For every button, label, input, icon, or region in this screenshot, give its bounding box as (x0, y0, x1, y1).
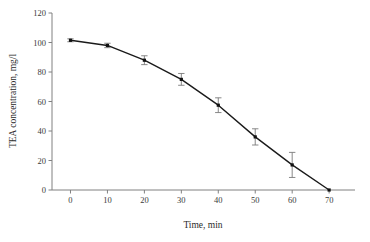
x-tick-label: 50 (251, 195, 260, 205)
y-tick-label: 120 (33, 8, 46, 18)
y-axis-title: TEA concentration, mg/l (8, 54, 18, 149)
x-tick-label: 40 (214, 195, 223, 205)
data-point-marker (69, 39, 72, 42)
y-tick-label: 80 (38, 67, 47, 77)
x-tick-label: 10 (103, 195, 112, 205)
x-tick-label: 60 (288, 195, 297, 205)
chart-background (0, 0, 370, 242)
x-tick-label: 30 (177, 195, 186, 205)
y-tick-label: 100 (33, 38, 46, 48)
x-tick-label: 0 (68, 195, 72, 205)
chart-figure: 020406080100120 010203040506070 Time, mi… (0, 0, 370, 242)
x-tick-label: 70 (325, 195, 334, 205)
x-tick-label: 20 (140, 195, 149, 205)
y-tick-label: 60 (38, 97, 47, 107)
data-point-marker (328, 188, 331, 191)
data-point-marker (254, 135, 257, 138)
data-point-marker (143, 59, 146, 62)
data-point-marker (106, 44, 109, 47)
line-chart: 020406080100120 010203040506070 Time, mi… (0, 0, 370, 242)
y-tick-label: 40 (38, 126, 47, 136)
x-axis-title: Time, min (183, 220, 222, 230)
y-tick-label: 0 (42, 185, 46, 195)
data-point-marker (217, 104, 220, 107)
data-point-marker (291, 163, 294, 166)
data-point-marker (180, 78, 183, 81)
y-tick-label: 20 (38, 156, 47, 166)
